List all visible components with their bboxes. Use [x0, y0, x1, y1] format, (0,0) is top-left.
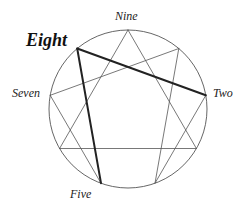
label-eight: Eight — [25, 30, 68, 50]
enneagram-circle — [49, 30, 207, 188]
enneagram-diagram: Nine Eight Seven Two Five — [0, 0, 246, 205]
line-6-9 — [60, 30, 128, 149]
line-9-3 — [128, 30, 196, 149]
thick-lines — [77, 49, 206, 184]
label-nine: Nine — [114, 9, 138, 23]
thin-lines — [50, 30, 206, 183]
label-two: Two — [213, 86, 233, 100]
label-seven: Seven — [12, 86, 40, 100]
label-five: Five — [69, 187, 92, 201]
